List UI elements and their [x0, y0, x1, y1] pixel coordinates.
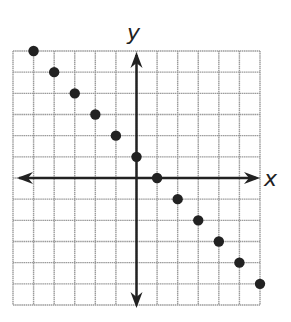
data-point	[172, 194, 182, 204]
data-point	[70, 88, 80, 98]
data-point	[214, 236, 224, 246]
data-point	[28, 46, 38, 56]
data-point	[255, 279, 265, 289]
y-axis-label: y	[127, 22, 140, 44]
axes	[17, 52, 260, 308]
data-point	[234, 257, 244, 267]
x-axis-label: x	[264, 168, 277, 190]
data-point	[152, 173, 162, 183]
data-point	[49, 67, 59, 77]
coordinate-plane	[0, 0, 291, 322]
data-point	[193, 215, 203, 225]
data-point	[90, 109, 100, 119]
data-point	[131, 152, 141, 162]
data-points	[28, 46, 265, 289]
data-point	[111, 130, 121, 140]
